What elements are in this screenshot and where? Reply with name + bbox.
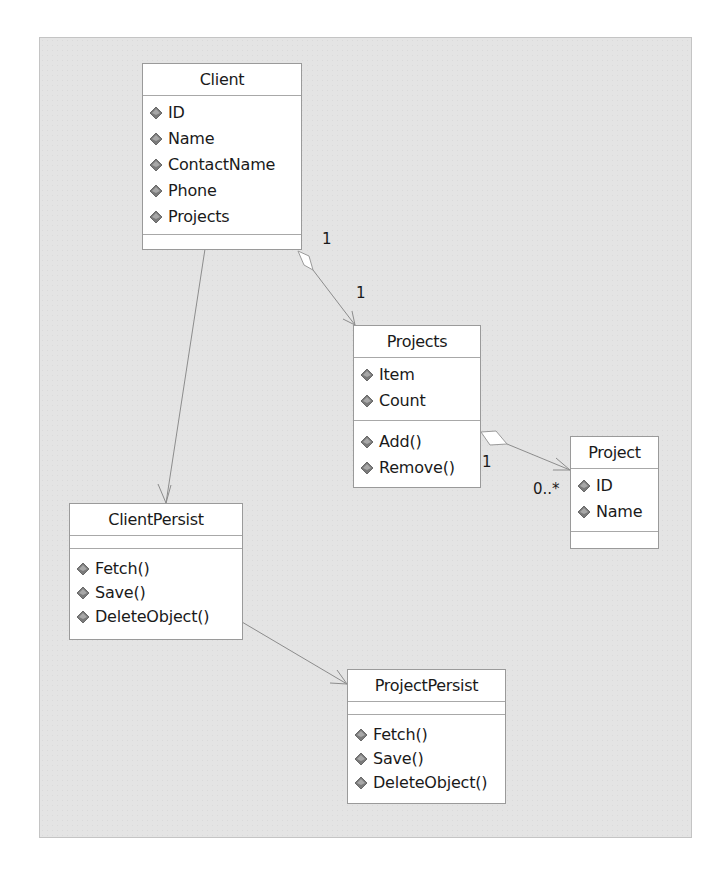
attribute[interactable]: Name <box>577 499 658 525</box>
operation-label: DeleteObject() <box>373 771 487 795</box>
attributes-section <box>348 702 505 715</box>
attribute[interactable]: Count <box>360 388 480 414</box>
operation[interactable]: Save() <box>76 581 242 605</box>
operation-label: Add() <box>379 429 421 455</box>
operation-label: DeleteObject() <box>95 605 209 629</box>
class-name: Project <box>571 437 658 469</box>
attributes-section: ID Name ContactName Phone Projects <box>143 96 301 235</box>
attribute-icon <box>149 210 163 224</box>
operation[interactable]: DeleteObject() <box>354 771 505 795</box>
operation-label: Save() <box>95 581 146 605</box>
operation-icon <box>354 752 368 766</box>
attribute-icon <box>149 132 163 146</box>
attribute[interactable]: Item <box>360 362 480 388</box>
operation-icon <box>76 586 90 600</box>
attribute-icon <box>360 394 374 408</box>
operation[interactable]: Fetch() <box>354 723 505 747</box>
class-name: Client <box>143 64 301 96</box>
attributes-section: Item Count <box>354 358 480 421</box>
attribute-label: ContactName <box>168 152 275 178</box>
attribute-label: Phone <box>168 178 217 204</box>
class-name: Projects <box>354 326 480 358</box>
operation-icon <box>354 728 368 742</box>
attribute[interactable]: ID <box>577 473 658 499</box>
attribute-label: Item <box>379 362 415 388</box>
operation-label: Save() <box>373 747 424 771</box>
operation-label: Fetch() <box>373 723 427 747</box>
association-client-clientpersist <box>158 249 205 503</box>
class-project[interactable]: Project ID Name <box>570 436 659 549</box>
multiplicity-projects-end: 1 <box>356 284 366 302</box>
class-projects[interactable]: Projects Item Count Add() Remove() <box>353 325 481 488</box>
attribute[interactable]: ID <box>149 100 301 126</box>
attribute-label: ID <box>596 473 613 499</box>
class-name: ProjectPersist <box>348 670 505 702</box>
class-client[interactable]: Client ID Name ContactName Phone Project… <box>142 63 302 250</box>
attributes-section: ID Name <box>571 469 658 532</box>
attribute-label: Count <box>379 388 426 414</box>
attribute[interactable]: Phone <box>149 178 301 204</box>
association-clientpersist-projectpersist <box>242 622 347 684</box>
operation[interactable]: Fetch() <box>76 557 242 581</box>
class-clientpersist[interactable]: ClientPersist Fetch() Save() DeleteObjec… <box>69 503 243 640</box>
operation[interactable]: DeleteObject() <box>76 605 242 629</box>
attribute-icon <box>149 158 163 172</box>
attribute[interactable]: ContactName <box>149 152 301 178</box>
operations-section <box>143 235 301 247</box>
operation-label: Fetch() <box>95 557 149 581</box>
attribute-label: Projects <box>168 204 229 230</box>
multiplicity-project-end: 0..* <box>533 480 560 498</box>
attribute[interactable]: Projects <box>149 204 301 230</box>
class-projectpersist[interactable]: ProjectPersist Fetch() Save() DeleteObje… <box>347 669 506 804</box>
operation-icon <box>354 776 368 790</box>
attribute-label: ID <box>168 100 185 126</box>
operations-section: Fetch() Save() DeleteObject() <box>70 549 242 633</box>
attributes-section <box>70 536 242 549</box>
operation-icon <box>360 435 374 449</box>
operation-icon <box>360 461 374 475</box>
attribute-icon <box>149 184 163 198</box>
operation-icon <box>76 610 90 624</box>
attribute-label: Name <box>596 499 642 525</box>
multiplicity-projects-aggregate-end: 1 <box>482 453 492 471</box>
operations-section: Fetch() Save() DeleteObject() <box>348 715 505 799</box>
aggregation-client-projects <box>298 251 355 325</box>
operation-icon <box>76 562 90 576</box>
attribute[interactable]: Name <box>149 126 301 152</box>
operations-section: Add() Remove() <box>354 421 480 485</box>
attribute-icon <box>577 479 591 493</box>
operation-label: Remove() <box>379 455 455 481</box>
attribute-icon <box>360 368 374 382</box>
multiplicity-client-end: 1 <box>322 230 332 248</box>
aggregation-projects-project <box>481 431 570 470</box>
attribute-icon <box>149 106 163 120</box>
attribute-icon <box>577 505 591 519</box>
attribute-label: Name <box>168 126 214 152</box>
operations-section <box>571 532 658 544</box>
class-name: ClientPersist <box>70 504 242 536</box>
operation[interactable]: Add() <box>360 429 480 455</box>
operation[interactable]: Remove() <box>360 455 480 481</box>
operation[interactable]: Save() <box>354 747 505 771</box>
